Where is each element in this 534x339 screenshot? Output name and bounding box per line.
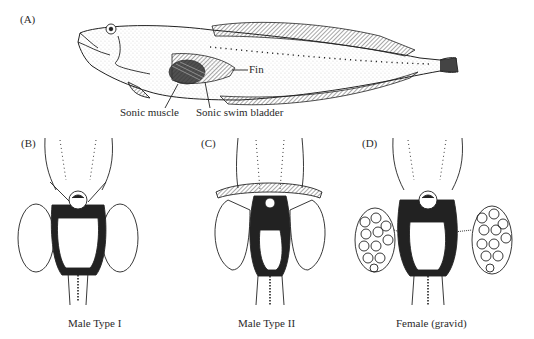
panel-letter-a: (A) xyxy=(20,13,35,25)
figure-artwork xyxy=(0,0,534,339)
right-ovary xyxy=(472,206,512,274)
panel-letter-b: (B) xyxy=(21,137,36,149)
fish-illustration xyxy=(78,22,458,108)
caption-female-gravid: Female (gravid) xyxy=(396,317,467,329)
female-gravid-illustration xyxy=(355,138,512,305)
callout-sonic-muscle: Sonic muscle xyxy=(120,106,179,118)
caption-male-type-i: Male Type I xyxy=(68,317,121,329)
panel-letter-d: (D) xyxy=(362,137,377,149)
callout-sonic-swim-bladder: Sonic swim bladder xyxy=(196,106,283,118)
caption-male-type-ii: Male Type II xyxy=(238,317,295,329)
callout-fin: Fin xyxy=(249,63,264,75)
panel-letter-c: (C) xyxy=(201,137,216,149)
male-type-ii-illustration xyxy=(215,138,325,305)
male-type-i-illustration xyxy=(18,138,138,305)
left-ovary xyxy=(355,208,395,272)
